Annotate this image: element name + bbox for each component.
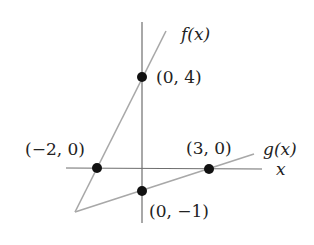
g-label: g(x) xyxy=(263,139,297,159)
label-3-0: (3, 0) xyxy=(186,138,232,158)
label-0-4: (0, 4) xyxy=(156,67,202,87)
point-0-4 xyxy=(137,72,147,82)
x-axis-label: x xyxy=(276,159,286,179)
label-0-neg1: (0, −1) xyxy=(149,201,209,221)
point-neg2-0 xyxy=(92,163,102,173)
label-neg2-0: (−2, 0) xyxy=(25,139,85,159)
diagram-canvas: f(x) (0, 4) (−2, 0) (3, 0) g(x) x (0, −1… xyxy=(0,0,314,245)
f-line xyxy=(75,31,166,212)
point-0-neg1 xyxy=(137,186,147,196)
point-3-0 xyxy=(204,164,214,174)
f-label: f(x) xyxy=(179,24,210,44)
